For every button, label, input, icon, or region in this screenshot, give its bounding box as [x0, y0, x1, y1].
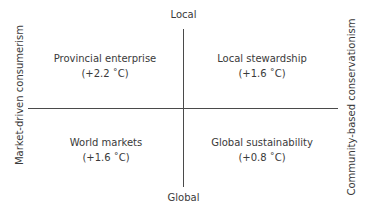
scenario-quadrant-diagram: Local Global Market-driven consumerism C… — [0, 0, 371, 211]
quadrant-global-sustainability: Global sustainability (+0.8 ˚C) — [187, 135, 337, 165]
quadrant-provincial-enterprise: Provincial enterprise (+2.2 ˚C) — [30, 51, 180, 81]
quadrant-title: Local stewardship — [187, 51, 337, 66]
axis-label-community-based-conservationism: Community-based conservationism — [346, 18, 358, 195]
axis-label-global: Global — [153, 192, 214, 204]
vertical-axis-line — [183, 29, 184, 187]
quadrant-title: World markets — [31, 135, 181, 150]
quadrant-warming-value: (+2.2 ˚C) — [30, 66, 180, 81]
quadrant-title: Global sustainability — [187, 135, 337, 150]
quadrant-world-markets: World markets (+1.6 ˚C) — [31, 135, 181, 165]
quadrant-local-stewardship: Local stewardship (+1.6 ˚C) — [187, 51, 337, 81]
quadrant-warming-value: (+0.8 ˚C) — [187, 150, 337, 165]
quadrant-warming-value: (+1.6 ˚C) — [187, 66, 337, 81]
axis-label-local: Local — [153, 9, 214, 21]
axis-label-market-driven-consumerism: Market-driven consumerism — [14, 25, 26, 165]
quadrant-title: Provincial enterprise — [30, 51, 180, 66]
quadrant-warming-value: (+1.6 ˚C) — [31, 150, 181, 165]
